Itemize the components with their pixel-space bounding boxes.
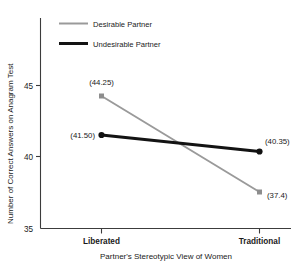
y-tick-label-40: 40 — [24, 153, 34, 162]
y-axis-title: Number of Correct Answers on Anagram Tes… — [6, 63, 15, 224]
data-point-undesirable-liberated — [98, 132, 104, 138]
chart-figure: 45 40 35 Number of Correct Answers on An… — [0, 0, 302, 267]
series-line-undesirable-partner — [102, 135, 260, 152]
point-label-desirable-liberated: (44.25) — [89, 78, 114, 87]
point-label-desirable-traditional: (37.4) — [267, 191, 288, 200]
point-label-undesirable-liberated: (41.50) — [70, 131, 95, 140]
data-point-undesirable-traditional — [256, 148, 262, 154]
legend-label-undesirable-partner: Undesirable Partner — [93, 40, 161, 49]
x-category-traditional: Traditional — [239, 237, 280, 246]
legend-label-desirable-partner: Desirable Partner — [93, 20, 153, 29]
point-label-undesirable-traditional: (40.35) — [265, 137, 290, 146]
data-point-desirable-traditional — [257, 190, 262, 195]
data-point-desirable-liberated — [99, 94, 104, 99]
x-category-liberated: Liberated — [83, 237, 120, 246]
x-axis-title: Partner's Stereotypic View of Women — [100, 252, 232, 261]
line-chart: 45 40 35 Number of Correct Answers on An… — [0, 0, 302, 267]
y-tick-label-45: 45 — [24, 82, 34, 91]
y-tick-label-35: 35 — [24, 225, 34, 234]
legend: Desirable Partner Undesirable Partner — [59, 20, 161, 49]
